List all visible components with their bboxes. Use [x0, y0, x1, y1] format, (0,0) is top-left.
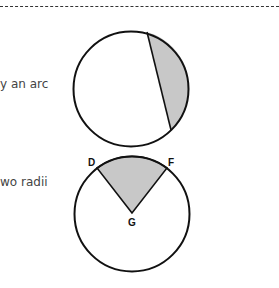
sector-circle-figure: D F G [75, 156, 190, 271]
label-g: G [128, 217, 136, 228]
shaded-sector [97, 156, 167, 213]
label-d: D [88, 157, 95, 168]
segment-circle-figure [74, 32, 190, 147]
label-f: F [168, 157, 174, 168]
geometry-figures: D F G [0, 0, 279, 288]
